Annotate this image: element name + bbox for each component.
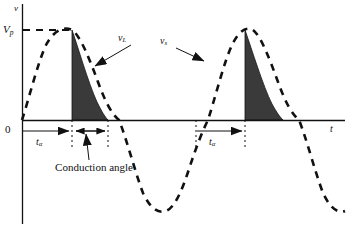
dimension-ticks <box>72 120 245 150</box>
source-voltage-subscript: s <box>164 39 167 46</box>
peak-voltage-symbol: V <box>3 23 10 35</box>
x-axis-label: t <box>330 124 333 134</box>
peak-voltage-subscript: p <box>10 28 14 37</box>
load-voltage-subscript: L <box>122 36 126 43</box>
callout-leaders <box>86 45 204 160</box>
delay-time-label-2: tα <box>209 137 215 148</box>
delay-time-subscript-2: α <box>212 140 216 147</box>
vs-leader <box>176 48 204 61</box>
conduction-angle-label: Conduction angle <box>48 162 140 173</box>
load-voltage-shaded-regions <box>72 30 283 120</box>
peak-voltage-label: Vp <box>3 24 13 36</box>
origin-label: 0 <box>5 124 11 135</box>
load-voltage-label: vL <box>118 33 126 44</box>
vl-leader <box>95 45 131 66</box>
conduction-segment-2 <box>245 30 283 120</box>
conduction-segment-1 <box>72 30 108 120</box>
delay-time-label-1: tα <box>36 137 42 148</box>
conduction-angle-leader <box>86 134 89 160</box>
waveform-figure <box>0 0 355 226</box>
source-voltage-label: vs <box>160 36 167 47</box>
y-axis-label: v <box>14 4 18 13</box>
delay-time-subscript-1: α <box>39 140 43 147</box>
